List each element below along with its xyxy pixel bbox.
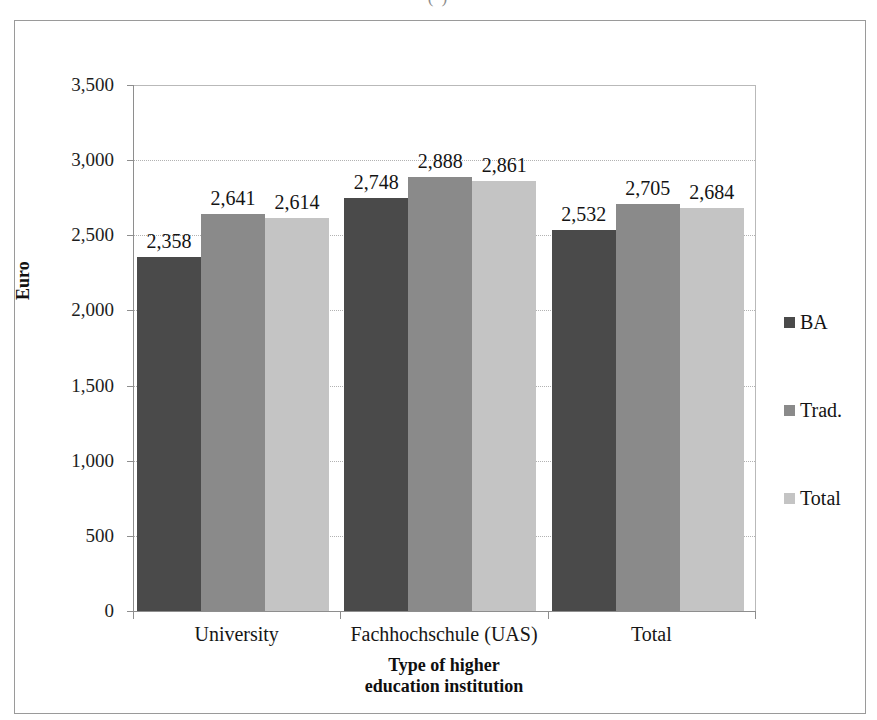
bar: [201, 214, 265, 611]
legend-item[interactable]: Total: [784, 488, 841, 508]
legend-swatch-icon: [784, 405, 795, 416]
y-axis-tick-label: 500: [28, 526, 114, 545]
y-axis-tick: [127, 85, 134, 86]
bar: [680, 208, 744, 611]
x-axis-category-label: Fachhochschule (UAS): [340, 623, 547, 645]
y-axis-tick-label: 3,000: [28, 150, 114, 169]
y-axis-title: Euro: [13, 261, 34, 300]
legend-swatch-icon: [784, 493, 795, 504]
x-axis-tick: [548, 611, 549, 619]
bar: [616, 204, 680, 611]
y-axis-tick-label: 1,500: [28, 376, 114, 395]
bar: [265, 218, 329, 611]
legend-label: Total: [800, 488, 841, 508]
x-axis-tick: [755, 611, 756, 619]
x-axis-title-line2: education institution: [133, 676, 755, 697]
y-axis-tick-label: 1,000: [28, 451, 114, 470]
x-axis-title-line1: Type of higher: [133, 655, 755, 676]
x-axis-tick: [340, 611, 341, 619]
bar: [552, 230, 616, 611]
bar-value-label: 2,532: [543, 204, 625, 224]
bar: [137, 257, 201, 611]
bar-value-label: 2,614: [256, 192, 338, 212]
bar-value-label: 2,861: [463, 155, 545, 175]
bar-value-label: 2,358: [128, 231, 210, 251]
y-axis-tick-label: 2,000: [28, 300, 114, 319]
legend-swatch-icon: [784, 317, 795, 328]
y-axis-tick-label: 0: [28, 601, 114, 620]
bar: [408, 177, 472, 611]
y-axis-tick: [127, 536, 134, 537]
legend-item[interactable]: Trad.: [784, 400, 842, 420]
legend-label: Trad.: [800, 400, 842, 420]
x-axis-category-label: University: [133, 623, 340, 645]
chart-page: ( ) 05001,0001,5002,0002,5003,0003,500 E…: [0, 0, 877, 720]
bar: [344, 198, 408, 611]
x-axis-tick: [133, 611, 134, 619]
legend-item[interactable]: BA: [784, 312, 828, 332]
x-axis-title: Type of higher education institution: [133, 655, 755, 697]
bar-value-label: 2,748: [335, 172, 417, 192]
bar-chart: 05001,0001,5002,0002,5003,0003,500 Euro …: [0, 0, 877, 720]
y-axis-tick-label: 3,500: [28, 75, 114, 94]
y-axis-tick: [127, 310, 134, 311]
bar-value-label: 2,684: [671, 182, 753, 202]
x-axis-category-label: Total: [548, 623, 755, 645]
y-axis-tick: [127, 461, 134, 462]
y-axis-tick: [127, 386, 134, 387]
bar: [472, 181, 536, 611]
y-axis-tick-label: 2,500: [28, 225, 114, 244]
y-axis-tick: [127, 160, 134, 161]
legend-label: BA: [800, 312, 828, 332]
